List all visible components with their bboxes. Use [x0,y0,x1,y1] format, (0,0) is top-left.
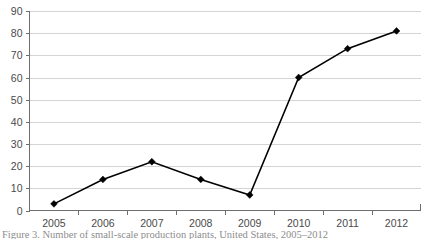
x-axis-tick-label: 2012 [385,217,409,229]
x-axis-tick-label: 2011 [336,217,359,229]
x-axis-ticks-group [79,211,373,215]
y-axis-tick-label: 30 [11,138,23,150]
y-axis-tick-label: 90 [11,5,23,17]
x-axis-tick-label: 2010 [287,217,311,229]
figure-container: 0102030405060708090 20052006200720082009… [0,0,433,239]
y-axis-tick-label: 0 [17,205,23,217]
x-axis-labels-group: 20052006200720082009201020112012 [42,217,408,229]
y-axis-tick-label: 70 [11,49,23,61]
x-axis-tick-label: 2006 [91,217,115,229]
y-axis-tick-label: 60 [11,72,23,84]
x-axis-tick-label: 2007 [140,217,164,229]
figure-caption: Figure 3. Number of small-scale producti… [2,229,433,239]
y-axis-tick-label: 80 [11,27,23,39]
y-axis-tick-label: 20 [11,160,23,172]
y-axis-tick-label: 40 [11,116,23,128]
x-axis-tick-label: 2005 [42,217,66,229]
line-chart: 0102030405060708090 20052006200720082009… [0,0,433,239]
y-axis-tick-label: 50 [11,94,23,106]
y-axis-ticks-group [26,12,30,212]
y-axis-tick-label: 10 [11,182,23,194]
y-axis-labels-group: 0102030405060708090 [11,5,23,217]
x-axis-tick-label: 2009 [238,217,262,229]
chart-plot-background [29,11,421,210]
x-axis-tick-label: 2008 [189,217,213,229]
